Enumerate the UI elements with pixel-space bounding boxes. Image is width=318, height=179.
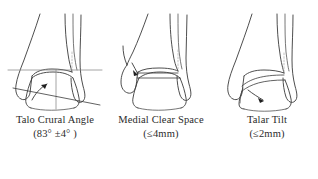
caption-title: Talo Crural Angle [16, 114, 94, 125]
caption-title: Medial Clear Space [118, 114, 204, 125]
panel-row: Talo Crural Angle (83° ±4° ) [0, 0, 318, 179]
caption-value: (83° ±4° ) [16, 128, 94, 139]
panel-talo-crural-angle: Talo Crural Angle (83° ±4° ) [2, 8, 108, 140]
panel-medial-clear-space: Medial Clear Space (≤4mm) [108, 8, 214, 140]
caption-talar-tilt: Talar Tilt (≤2mm) [247, 114, 287, 140]
caption-talo-crural-angle: Talo Crural Angle (83° ±4° ) [16, 114, 94, 140]
talo-crural-angle-illustration [2, 8, 108, 113]
caption-medial-clear-space: Medial Clear Space (≤4mm) [118, 114, 204, 140]
caption-value: (≤4mm) [118, 128, 204, 139]
talar-tilt-illustration [214, 8, 318, 113]
caption-value: (≤2mm) [247, 128, 287, 139]
ankle-measurement-figure: Talo Crural Angle (83° ±4° ) [0, 0, 318, 179]
caption-title: Talar Tilt [247, 114, 287, 125]
medial-clear-space-illustration [108, 8, 214, 113]
panel-talar-tilt: Talar Tilt (≤2mm) [214, 8, 318, 140]
